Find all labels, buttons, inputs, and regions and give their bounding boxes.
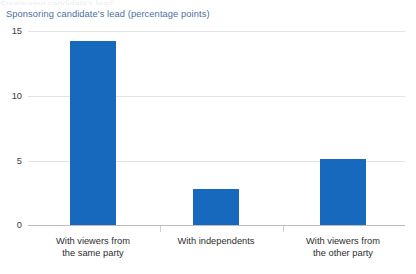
bar-with-independents (193, 189, 239, 225)
bar-with-viewers-from-the-other-party (320, 159, 366, 225)
xlabel-group-0: With viewers from the same party (30, 236, 156, 259)
bar-with-viewers-from-the-same-party (70, 41, 116, 225)
xlabel-group-2: With viewers from the other party (280, 236, 406, 259)
xlabel-line-2-0: With viewers from (280, 236, 406, 248)
xlabel-line-0-0: With viewers from (30, 236, 156, 248)
ytick-label-5: 5 (0, 157, 22, 166)
ytick-label-10: 10 (0, 92, 22, 101)
plot-area: 15 10 5 0 With viewers from the same par… (0, 0, 416, 274)
ytick-label-0: 0 (0, 221, 22, 230)
xlabel-line-2-1: the other party (280, 248, 406, 260)
xlabel-line-0-1: the same party (30, 248, 156, 260)
xlabel-line-1-0: With independents (153, 236, 279, 248)
xlabel-group-1: With independents (153, 236, 279, 248)
axis-baseline-0 (28, 225, 405, 226)
category-tick-1 (160, 226, 161, 232)
category-tick-2 (283, 226, 284, 232)
chart-figure: Sponsoring candidate's lead Sponsoring c… (0, 0, 416, 274)
ytick-label-15: 15 (0, 27, 22, 36)
gridline-15 (28, 31, 405, 32)
